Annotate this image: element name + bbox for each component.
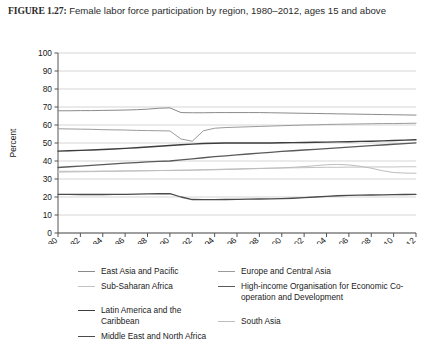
figure-caption: FIGURE 1.27: Female labor force particip… (8, 4, 420, 18)
legend-line-swatch (218, 321, 235, 322)
y-tick-label: 80 (43, 84, 53, 94)
legend-group-gap (78, 296, 218, 305)
y-tick-label: 20 (43, 192, 53, 202)
legend-line-swatch (218, 286, 235, 287)
series-line-4 (58, 140, 416, 151)
x-tick-label: 1992 (173, 235, 193, 244)
y-tick-label: 70 (43, 102, 53, 112)
y-tick-label: 50 (43, 138, 53, 148)
legend-line-swatch (78, 271, 95, 272)
legend-group-gap (218, 307, 424, 316)
legend-item-label: Middle East and North Africa (101, 331, 206, 343)
series-line-0 (58, 108, 416, 115)
chart-legend: East Asia and PacificSub-Saharan AfricaL… (0, 266, 430, 350)
legend-item[interactable]: South Asia (218, 316, 424, 328)
y-tick-label: 30 (43, 174, 53, 184)
legend-item[interactable]: East Asia and Pacific (78, 266, 218, 278)
legend-column-0: East Asia and PacificSub-Saharan AfricaL… (78, 266, 218, 346)
series-line-6 (58, 194, 416, 200)
legend-item[interactable]: Latin America and the Caribbean (78, 305, 218, 328)
legend-line-swatch (218, 271, 235, 272)
x-tick-label: 2010 (375, 235, 395, 244)
x-tick-label: 2004 (308, 235, 328, 244)
legend-item-label: High-income Organisation for Economic Co… (241, 281, 424, 304)
figure-caption-text: Female labor force participation by regi… (69, 5, 386, 16)
x-tick-label: 1990 (151, 235, 171, 244)
y-tick-label: 100 (38, 48, 52, 58)
legend-item[interactable]: Europe and Central Asia (218, 266, 424, 278)
series-line-5 (58, 164, 416, 173)
figure-container: FIGURE 1.27: Female labor force particip… (0, 0, 430, 350)
y-tick-label: 10 (43, 210, 53, 220)
series-line-1 (58, 123, 416, 141)
legend-item-label: South Asia (241, 316, 281, 328)
legend-item[interactable]: Middle East and North Africa (78, 331, 218, 343)
x-tick-label: 2000 (263, 235, 283, 244)
figure-number: FIGURE 1.27: (8, 5, 67, 16)
y-tick-label: 40 (43, 156, 53, 166)
x-tick-label: 2002 (285, 235, 305, 244)
legend-item[interactable]: Sub-Saharan Africa (78, 281, 218, 293)
legend-item[interactable]: High-income Organisation for Economic Co… (218, 281, 424, 304)
x-tick-label: 1996 (218, 235, 238, 244)
legend-line-swatch (78, 336, 95, 337)
y-axis-title: Percent (8, 128, 18, 158)
x-tick-label: 2006 (330, 235, 350, 244)
legend-item-label: Europe and Central Asia (241, 266, 331, 278)
legend-line-swatch (78, 286, 95, 287)
legend-item-label: East Asia and Pacific (101, 266, 178, 278)
legend-item-label: Sub-Saharan Africa (101, 281, 173, 293)
x-tick-label: 2008 (352, 235, 372, 244)
legend-line-swatch (78, 310, 95, 311)
x-tick-label: 1994 (196, 235, 216, 244)
x-tick-label: 2012 (397, 235, 417, 244)
x-tick-label: 1982 (62, 235, 82, 244)
x-tick-label: 1988 (129, 235, 149, 244)
series-line-3 (58, 143, 416, 168)
legend-item-label: Latin America and the Caribbean (101, 305, 218, 328)
y-tick-label: 90 (43, 66, 53, 76)
y-tick-label: 60 (43, 120, 53, 130)
x-tick-label: 1986 (106, 235, 126, 244)
x-tick-label: 1998 (241, 235, 261, 244)
line-chart: 0102030405060708090100Percent19801982198… (0, 44, 430, 244)
x-tick-label: 1984 (84, 235, 104, 244)
chart-plot-area: 0102030405060708090100Percent19801982198… (0, 44, 430, 244)
legend-column-1: Europe and Central AsiaHigh-income Organ… (218, 266, 424, 331)
